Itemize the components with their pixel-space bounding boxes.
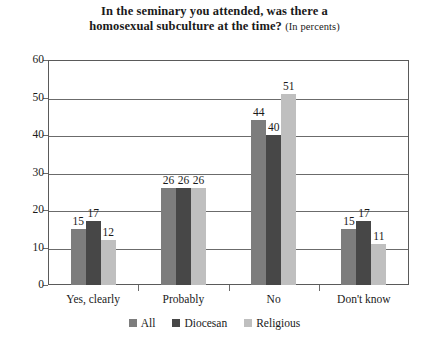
chart-title-line-2-text: homosexual subculture at the time? [89,19,282,33]
x-axis-label: No [229,292,319,306]
chart-subtitle: (In percents) [285,21,340,32]
bar [251,120,266,285]
chart-title-line-1: In the seminary you attended, was there … [0,4,429,19]
y-tick-label-40: 40 [2,129,44,141]
bar [161,188,176,286]
bar [341,229,356,285]
chart-title-line-2: homosexual subculture at the time? (In p… [0,19,429,34]
bar-value-label: 11 [362,231,396,243]
y-tick-label-20: 20 [2,204,44,216]
x-axis-labels: Yes, clearlyProbablyNoDon't know [48,292,409,308]
bar-value-label: 17 [76,208,110,220]
bar-value-label: 12 [91,227,125,239]
y-tick-label-30: 30 [2,167,44,179]
x-tick-mark [229,285,230,291]
bar-value-label: 44 [242,107,276,119]
x-tick-mark [319,285,320,291]
bar [176,188,191,286]
legend-swatch-icon [172,319,180,327]
bar [191,188,206,286]
bar [71,229,86,285]
legend-swatch-icon [244,319,252,327]
bar-group: 262626 [161,60,206,285]
bar [281,94,296,285]
y-tick-label-50: 50 [2,92,44,104]
legend-item[interactable]: All [129,317,156,329]
y-axis-labels: 0102030405060 [0,60,44,285]
bars-layer: 151712262626444051151711 [48,60,409,285]
bar-value-label: 26 [181,175,215,187]
legend-label: Religious [256,317,300,329]
bar [101,240,116,285]
chart-legend: AllDiocesanReligious [0,317,429,329]
bar [266,135,281,285]
x-axis-label: Don't know [319,292,409,306]
bar-value-label: 51 [272,81,306,93]
chart-title-block: In the seminary you attended, was there … [0,4,429,34]
bar [371,244,386,285]
x-axis-label: Probably [138,292,228,306]
x-axis-label: Yes, clearly [48,292,138,306]
bar-group: 151712 [71,60,116,285]
legend-item[interactable]: Religious [244,317,300,329]
y-tick-label-0: 0 [2,279,44,291]
x-tick-mark [138,285,139,291]
legend-swatch-icon [129,319,137,327]
x-axis-ticks [48,285,409,292]
bar-value-label: 17 [347,208,381,220]
y-tick-label-10: 10 [2,242,44,254]
bar-group: 151711 [341,60,386,285]
bar-group: 444051 [251,60,296,285]
legend-item[interactable]: Diocesan [172,317,227,329]
legend-label: All [141,317,156,329]
y-tick-label-60: 60 [2,54,44,66]
legend-label: Diocesan [184,317,227,329]
